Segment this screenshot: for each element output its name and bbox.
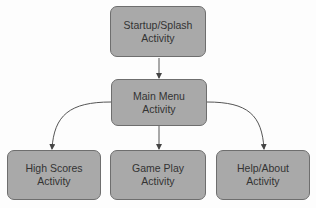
node-label-line2: Activity — [141, 32, 174, 45]
node-label-line2: Activity — [246, 175, 279, 188]
node-help-about-activity: Help/About Activity — [216, 150, 310, 200]
node-main-menu-activity: Main Menu Activity — [111, 79, 207, 126]
node-label-line2: Activity — [141, 175, 174, 188]
node-label-line1: Main Menu — [133, 90, 185, 103]
node-label-line2: Activity — [37, 175, 70, 188]
node-label-line1: Startup/Splash — [124, 19, 193, 32]
node-label-line1: Help/About — [237, 162, 289, 175]
node-high-scores-activity: High Scores Activity — [7, 150, 101, 200]
node-game-play-activity: Game Play Activity — [110, 150, 206, 200]
edge-main-menu-to-help-about — [207, 102, 264, 149]
edge-main-menu-to-high-scores — [52, 102, 111, 149]
node-label-line1: High Scores — [25, 162, 82, 175]
node-label-line1: Game Play — [132, 162, 184, 175]
node-startup-splash-activity: Startup/Splash Activity — [110, 6, 206, 57]
node-label-line2: Activity — [142, 103, 175, 116]
activity-flow-diagram: Startup/Splash Activity Main Menu Activi… — [0, 0, 316, 208]
